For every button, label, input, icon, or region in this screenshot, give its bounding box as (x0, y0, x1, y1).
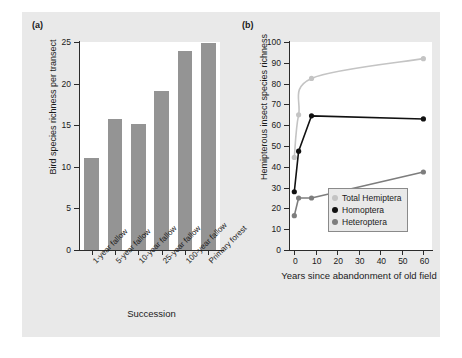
y-tick: 5 (74, 208, 79, 209)
data-point (309, 195, 314, 200)
series-line (294, 116, 423, 192)
legend-label: Heteroptera (342, 217, 387, 227)
data-point (421, 116, 426, 121)
bar (178, 51, 192, 250)
legend-marker-icon (332, 195, 338, 201)
y-tick: 0 (74, 250, 79, 251)
data-point (309, 76, 314, 81)
panel-a-y-axis-line (79, 41, 80, 251)
bar (84, 158, 98, 250)
x-tick (185, 251, 186, 255)
data-point (309, 113, 314, 118)
y-tick: 20 (74, 84, 79, 85)
data-point (292, 189, 297, 194)
x-tick (162, 251, 163, 255)
y-tick-label: 25 (62, 37, 71, 47)
panel-b-series-plot (232, 12, 440, 337)
data-point (421, 56, 426, 61)
legend-label: Homoptera (342, 205, 384, 215)
y-tick-label: 15 (62, 120, 71, 130)
legend-item-heteroptera: Heteroptera (332, 216, 402, 228)
x-tick (115, 251, 116, 255)
data-point (296, 195, 301, 200)
x-tick (208, 251, 209, 255)
data-point (421, 169, 426, 174)
bar (201, 43, 215, 250)
panel-a-x-axis-title: Succession (79, 308, 224, 319)
x-tick (138, 251, 139, 255)
y-tick-label: 0 (66, 245, 71, 255)
panel-b-line-chart: (b) Hemipterous insect species richness … (232, 12, 440, 337)
panel-a-label: (a) (32, 20, 43, 30)
legend-label: Total Hemiptera (342, 193, 402, 203)
data-point (296, 112, 301, 117)
bar (154, 91, 168, 250)
panel-a-bar-chart: (a) Bird species richness per transect 0… (22, 12, 230, 337)
legend-item-total-hemiptera: Total Hemiptera (332, 192, 402, 204)
data-point (292, 213, 297, 218)
x-tick (92, 251, 93, 255)
y-tick: 15 (74, 125, 79, 126)
data-point (292, 155, 297, 160)
y-tick: 25 (74, 42, 79, 43)
y-tick-label: 20 (62, 79, 71, 89)
figure-container: (a) Bird species richness per transect 0… (0, 0, 462, 358)
y-tick-label: 5 (66, 203, 71, 213)
y-tick: 10 (74, 167, 79, 168)
data-point (296, 149, 301, 154)
y-tick-label: 10 (62, 162, 71, 172)
panel-b-x-axis-title: Years since abandonment of old field (274, 270, 444, 281)
panel-a-y-axis-title: Bird species richness per transect (48, 32, 58, 182)
legend-marker-icon (332, 219, 338, 225)
series-line (294, 59, 423, 158)
panel-a-plot-area (80, 42, 220, 250)
legend-marker-icon (332, 207, 338, 213)
legend-item-homoptera: Homoptera (332, 204, 402, 216)
panel-b-legend: Total Hemiptera Homoptera Heteroptera (328, 188, 408, 232)
